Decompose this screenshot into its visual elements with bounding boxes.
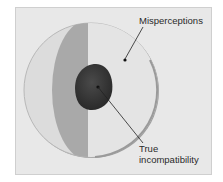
- label-true: True: [139, 143, 158, 154]
- label-misperceptions: Misperceptions: [139, 15, 203, 26]
- label-incompatibility: incompatibility: [139, 154, 199, 165]
